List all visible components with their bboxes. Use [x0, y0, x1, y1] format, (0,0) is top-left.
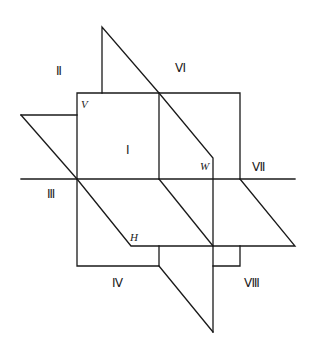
octant-diagram: V W H Ⅰ Ⅱ Ⅲ Ⅳ Ⅵ Ⅶ Ⅷ [0, 0, 313, 357]
label-octant-i: Ⅰ [126, 143, 130, 157]
label-plane-w: W [200, 160, 210, 172]
label-octant-iii: Ⅲ [47, 187, 55, 201]
label-octant-ii: Ⅱ [56, 64, 62, 78]
label-octant-vii: Ⅶ [252, 160, 265, 174]
label-octant-vi: Ⅵ [175, 61, 186, 75]
label-octant-viii: Ⅷ [244, 276, 260, 290]
label-plane-v: V [81, 98, 89, 110]
label-plane-h: H [129, 231, 139, 243]
h-plane [21, 115, 295, 246]
label-octant-iv: Ⅳ [112, 276, 123, 290]
